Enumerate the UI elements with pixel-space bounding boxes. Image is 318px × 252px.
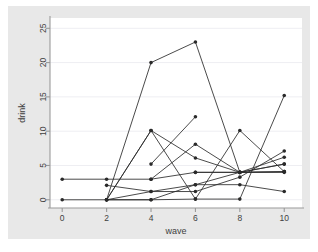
y-axis-ticks: 0510152025 [38,23,50,202]
data-point-marker [238,183,242,187]
y-tick-label: 20 [38,58,48,68]
y-axis-title: drink [17,103,27,123]
x-axis-ticks: 0246810 [60,208,289,223]
data-point-marker [60,198,64,202]
data-point-marker [105,184,109,188]
data-point-marker [149,190,153,194]
data-point-marker [149,198,153,202]
x-tick-label: 4 [149,213,154,223]
data-point-marker [194,142,198,146]
data-point-marker [149,162,153,166]
data-point-marker [282,162,286,166]
series-group [60,40,286,201]
x-tick-label: 2 [104,213,109,223]
data-point-marker [194,40,198,44]
x-axis-title: wave [164,226,186,236]
data-point-marker [282,155,286,159]
x-tick-label: 6 [193,213,198,223]
data-point-marker [238,171,242,175]
data-point-marker [194,115,198,119]
data-point-marker [60,177,64,181]
data-point-marker [194,183,198,187]
data-point-marker [282,170,286,174]
x-tick-label: 10 [280,213,290,223]
series-line [62,164,284,200]
series-line [107,42,285,200]
y-tick-label: 15 [38,92,48,102]
data-point-marker [105,177,109,181]
data-point-marker [282,190,286,194]
data-point-marker [238,197,242,201]
y-tick-label: 25 [38,23,48,33]
data-point-marker [238,175,242,179]
y-tick-label: 10 [38,126,48,136]
data-point-marker [149,129,153,133]
y-tick-label: 5 [38,163,48,168]
data-point-marker [149,177,153,181]
data-point-marker [194,156,198,160]
line-chart: 05101520250246810wavedrink [0,0,318,252]
grid-lines [50,28,302,199]
data-point-marker [282,94,286,98]
data-point-marker [149,61,153,65]
data-point-marker [194,190,198,194]
chart-figure: 05101520250246810wavedrink [0,0,318,252]
data-point-marker [105,198,109,202]
data-point-marker [238,129,242,133]
x-tick-label: 0 [60,213,65,223]
data-point-marker [194,197,198,201]
data-point-marker [194,171,198,175]
y-tick-label: 0 [38,197,48,202]
data-point-marker [282,149,286,153]
x-tick-label: 8 [237,213,242,223]
